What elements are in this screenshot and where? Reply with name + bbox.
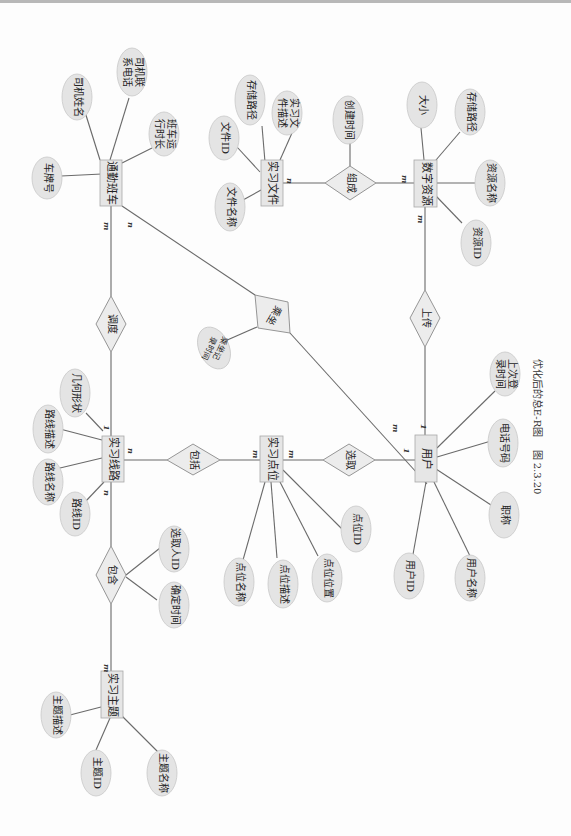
cardinality-labels: m n 1 n n m n m m 1 m 1 m m [102, 175, 429, 672]
entity-point: 实习点位 [260, 436, 283, 482]
svg-text:文件ID: 文件ID [220, 122, 232, 154]
relationship-ride: 乘坐 [255, 295, 290, 333]
attribute-route-description: 路线描述 [33, 405, 63, 453]
text-line-1: 司机联 [134, 57, 146, 87]
entity-commute-bus: 通勤班车 [100, 160, 122, 206]
entity-label: 实习文件 [266, 161, 280, 205]
attribute-file-storage-path: 存储路径 [235, 75, 265, 125]
attribute-geometry: 几何形状 [60, 369, 90, 417]
svg-text:确定时间: 确定时间 [170, 585, 182, 625]
attribute-file-name: 文件名称 [215, 183, 245, 231]
attribute-create-time: 创建时间 [333, 96, 363, 144]
relationship-label: 包括 [189, 450, 201, 470]
attribute-ride-record-time: 乘坐记 录时间 [191, 322, 237, 375]
attribute-resource-id: 资源ID [461, 220, 491, 266]
attribute-driver-phone: 司机联 系电话 [117, 48, 147, 96]
card-dispatch-route: 1 [102, 425, 112, 431]
card-upload-resource: m [416, 215, 426, 223]
entity-digital-resource: 数字资源 [414, 160, 437, 207]
attribute-point-location: 点位位置 [312, 554, 342, 602]
er-diagram: 通勤班车 实习文件 数字资源 实习线路 实习点位 用户 实习主题 [0, 0, 571, 836]
svg-text:创建时间: 创建时间 [344, 100, 356, 140]
relationship-label: 调度 [107, 314, 119, 334]
caption-number: 图 2.3.20 [532, 450, 543, 495]
attribute-title: 职称 [489, 492, 519, 538]
attribute-resource-name: 资源名称 [475, 160, 505, 206]
entity-route: 实习线路 [102, 436, 124, 482]
svg-text:点位位置: 点位位置 [323, 558, 335, 598]
attribute-theme-description: 主题描述 [41, 692, 71, 738]
relationship-include-points: 包括 [167, 444, 220, 475]
attribute-selector-id: 选取人ID [159, 526, 189, 572]
attribute-plate-number: 车牌号 [32, 157, 62, 199]
attribute-driver-name: 司机姓名 [62, 74, 92, 120]
relationship-contain: 包含 [96, 546, 126, 604]
card-select-point: m [287, 450, 297, 458]
attribute-point-name: 点位名称 [224, 558, 254, 606]
svg-text:存储路径: 存储路径 [246, 80, 258, 120]
figure-caption: 图 2.3.20 优化后的总E-R图 [532, 359, 544, 495]
svg-text:用户ID: 用户ID [405, 560, 417, 592]
entity-user: 用户 [415, 435, 437, 482]
text-line-2: 件描述 [277, 98, 289, 128]
text-line-1: 上次登 [507, 359, 519, 389]
relationship-select: 选取 [323, 444, 375, 476]
svg-text:电话号码: 电话号码 [499, 423, 511, 463]
entity-label: 实习点位 [266, 437, 280, 481]
svg-text:大小: 大小 [418, 95, 430, 115]
attribute-user-id: 用户ID [394, 553, 424, 599]
svg-text:职称: 职称 [500, 505, 512, 525]
card-dispatch-bus: m [102, 222, 112, 230]
svg-text:主题名称: 主题名称 [158, 753, 170, 793]
card-ride-user: m [391, 424, 401, 432]
svg-text:点位描述: 点位描述 [279, 564, 291, 604]
svg-text:司机姓名: 司机姓名 [73, 77, 85, 117]
svg-text:选取人ID: 选取人ID [170, 528, 182, 570]
attribute-file-description: 实习文 件描述 [272, 91, 302, 135]
attribute-route-name: 路线名称 [33, 459, 63, 505]
card-contain-theme: m [102, 664, 112, 672]
card-contain-route: n [102, 490, 112, 496]
er-diagram-page: 通勤班车 实习文件 数字资源 实习线路 实习点位 用户 实习主题 [0, 0, 571, 836]
svg-text:主题描述: 主题描述 [52, 695, 64, 735]
attribute-theme-id: 主题ID [81, 750, 111, 796]
text-line-2: 系电话 [122, 57, 134, 87]
svg-text:资源ID: 资源ID [472, 227, 484, 259]
attribute-confirm-time: 确定时间 [159, 582, 189, 628]
card-select-user: 1 [402, 448, 412, 454]
text-line-1: 班车运 [166, 119, 178, 149]
text-line-2: 行时长 [154, 119, 166, 149]
entity-label: 实习主题 [106, 673, 120, 717]
entity-label: 用户 [420, 448, 434, 470]
attribute-bus-runtime: 班车运 行时长 [149, 112, 179, 156]
svg-text:路线描述: 路线描述 [44, 409, 56, 449]
text-line-2: 录时间 [495, 359, 507, 389]
card-include-route: n [126, 448, 136, 454]
svg-text:文件名称: 文件名称 [226, 187, 238, 227]
svg-text:路线ID: 路线ID [71, 498, 83, 530]
attribute-route-id: 路线ID [60, 492, 90, 536]
attribute-user-name: 用户名称 [455, 555, 485, 601]
relationship-dispatch: 调度 [96, 296, 126, 352]
svg-text:资源名称: 资源名称 [486, 163, 498, 203]
svg-text:用户名称: 用户名称 [466, 558, 478, 598]
text-line-1: 实习文 [289, 98, 301, 128]
card-ride-bus: n [126, 222, 136, 228]
svg-text:主题ID: 主题ID [92, 757, 103, 789]
relationship-upload: 上传 [410, 290, 440, 347]
relationship-compose: 组成 [325, 166, 376, 200]
svg-text:车牌号: 车牌号 [43, 163, 55, 193]
card-compose-file: n [285, 178, 295, 184]
entity-label: 通勤班车 [105, 161, 119, 205]
attribute-file-id: 文件ID [209, 116, 239, 160]
attribute-theme-name: 主题名称 [147, 750, 177, 796]
attribute-resource-storage-path: 存储路径 [455, 89, 485, 135]
attribute-size: 大小 [407, 82, 437, 128]
entity-label: 实习线路 [107, 437, 121, 481]
attribute-point-description: 点位描述 [268, 560, 298, 608]
svg-text:路线名称: 路线名称 [44, 462, 56, 502]
svg-text:点位ID: 点位ID [352, 513, 364, 545]
attribute-last-login-time: 上次登 录时间 [490, 352, 520, 396]
relationship-label: 选取 [345, 450, 357, 470]
relationship-label: 组成 [346, 173, 358, 193]
